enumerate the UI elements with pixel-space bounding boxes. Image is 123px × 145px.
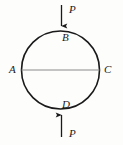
point-label-a: A	[9, 64, 16, 75]
ring-load-diagram: A B C D P P	[0, 0, 123, 145]
force-label-p-top: P	[69, 4, 76, 15]
point-label-c: C	[104, 64, 111, 75]
force-label-p-bottom: P	[69, 128, 76, 139]
point-label-b: B	[62, 32, 69, 43]
point-label-d: D	[62, 99, 70, 110]
